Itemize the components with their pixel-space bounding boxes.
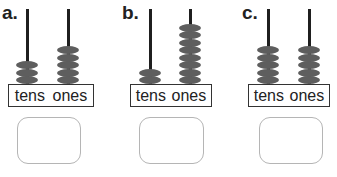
place-value-label: tens ones xyxy=(248,84,330,107)
abacus-panel-c: c. tens ones xyxy=(0,0,337,177)
abacus-bead xyxy=(257,54,279,62)
abacus-bead xyxy=(298,76,320,84)
problem-letter: c. xyxy=(242,2,258,24)
abacus-bead xyxy=(298,46,320,54)
answer-box[interactable] xyxy=(259,117,323,164)
abacus-bead xyxy=(257,76,279,84)
ones-label: ones xyxy=(290,87,325,105)
tens-label: tens xyxy=(254,87,284,105)
abacus-bead xyxy=(257,69,279,77)
abacus-bead xyxy=(257,46,279,54)
abacus-bead xyxy=(298,54,320,62)
abacus-bead xyxy=(257,61,279,69)
abacus-bead xyxy=(298,69,320,77)
abacus-bead xyxy=(298,61,320,69)
